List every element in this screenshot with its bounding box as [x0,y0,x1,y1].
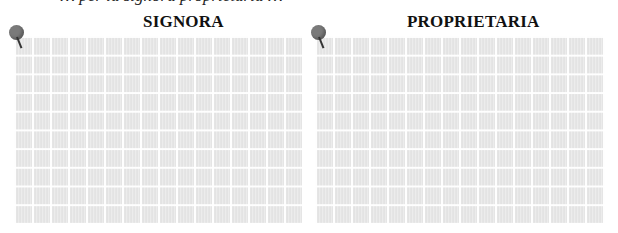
grid-panel-signora [14,36,302,223]
cut-off-heading: … per la signora proprietaria … [0,0,618,6]
panel-title-signora: SIGNORA [143,12,224,32]
panel-title-proprietaria: PROPRIETARIA [407,12,539,32]
grid-panel-proprietaria [315,36,605,223]
